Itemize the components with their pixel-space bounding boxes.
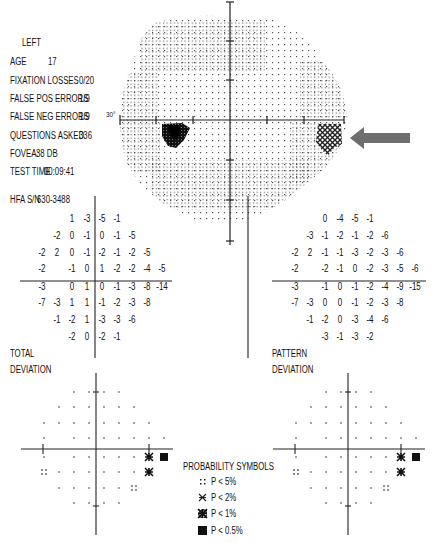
legend-p1-text: P < 1% — [211, 508, 236, 519]
p1-icon — [198, 509, 208, 519]
legend-p05-text: P < 0.5% — [211, 525, 243, 536]
p05-icon — [198, 526, 208, 536]
legend-p2-text: P < 2% — [211, 492, 236, 503]
legend-p5-text: P < 5% — [211, 476, 236, 487]
probability-legend-title: PROBABILITY SYMBOLS — [183, 461, 274, 472]
p5-icon — [199, 477, 209, 487]
p2-icon — [198, 493, 208, 503]
